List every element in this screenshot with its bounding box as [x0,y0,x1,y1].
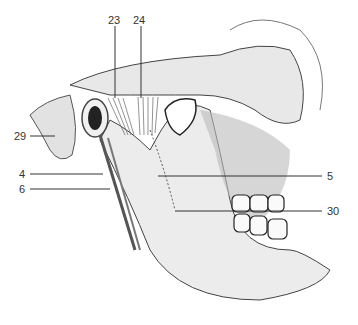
anatomy-diagram: 23 24 29 4 6 5 30 [0,0,358,325]
skull-illustration [0,0,358,325]
label-4: 4 [19,168,25,180]
label-30: 30 [327,205,339,217]
label-6: 6 [19,183,25,195]
label-29: 29 [14,130,26,142]
label-23: 23 [108,14,120,26]
label-5: 5 [327,170,333,182]
label-24: 24 [133,14,145,26]
